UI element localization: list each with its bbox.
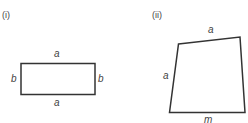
rectangle-shape bbox=[21, 64, 95, 95]
panel-label-i: (i) bbox=[2, 10, 10, 20]
panel-label-ii: (ii) bbox=[152, 10, 162, 20]
quadrilateral-shape bbox=[170, 37, 246, 113]
rect-side-left-label: b bbox=[11, 73, 17, 84]
rect-side-bottom-label: a bbox=[54, 97, 60, 108]
rect-side-right-label: b bbox=[98, 73, 104, 84]
quad-side-left-label: a bbox=[163, 70, 169, 81]
figures-canvas bbox=[0, 0, 248, 123]
quad-side-bottom-label: m bbox=[204, 114, 212, 123]
rect-side-top-label: a bbox=[54, 48, 60, 59]
quad-side-top-label: a bbox=[208, 24, 214, 35]
